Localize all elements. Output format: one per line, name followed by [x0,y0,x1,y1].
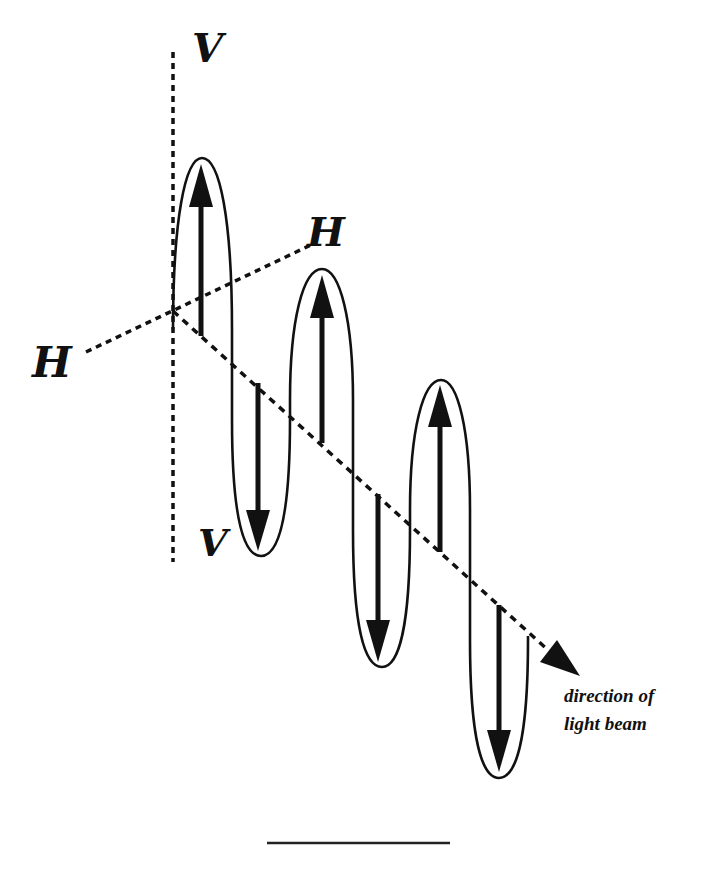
field-arrow-down-4 [366,494,390,662]
beam-direction-line [173,311,548,650]
field-arrow-up-1 [189,164,213,336]
field-arrow-down-2 [246,383,270,551]
label-v-bottom: V [198,524,227,562]
field-arrow-down-6 [487,605,511,772]
field-arrow-up-3 [310,275,334,443]
label-v-top: V [192,28,223,68]
caption-line-1: direction of [564,684,654,708]
caption-line-2: light beam [564,712,647,736]
field-arrow-up-5 [428,385,452,552]
wave-curve [173,158,528,778]
polarized-light-diagram [0,0,719,876]
beam-arrowhead-icon [540,640,580,676]
label-h-left: H [32,342,72,384]
label-h-right: H [307,212,345,252]
